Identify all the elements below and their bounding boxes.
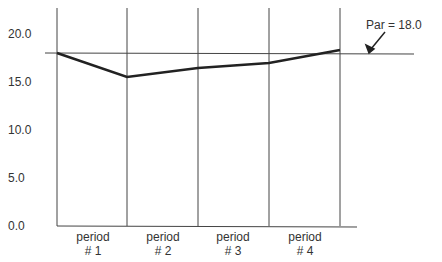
x-axis xyxy=(57,226,357,227)
y-tick: 15.0 xyxy=(8,75,38,89)
x-label-period-2: period# 2 xyxy=(133,230,193,258)
par-label: Par = 18.0 xyxy=(366,18,422,32)
x-label-period-1: period# 1 xyxy=(63,230,123,258)
par-line xyxy=(45,53,414,54)
y-tick: 20.0 xyxy=(8,27,38,41)
x-label-period-3: period# 3 xyxy=(203,230,263,258)
y-tick: 5.0 xyxy=(8,171,38,185)
y-tick: 0.0 xyxy=(8,219,38,233)
x-label-period-4: period# 4 xyxy=(275,230,335,258)
y-tick: 10.0 xyxy=(8,123,38,137)
chart-canvas xyxy=(0,0,442,262)
par-arrow xyxy=(366,32,385,53)
